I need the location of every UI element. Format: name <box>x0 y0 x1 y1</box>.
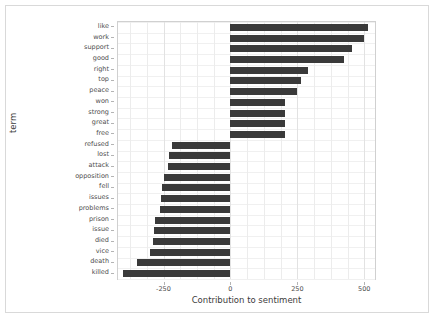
bar <box>230 35 364 42</box>
plot-panel <box>117 21 376 280</box>
bar <box>123 270 230 277</box>
y-tick-mark <box>111 166 114 167</box>
y-tick-label: died <box>95 237 109 244</box>
y-tick-mark <box>111 262 114 263</box>
gridline-vertical-minor <box>348 22 349 279</box>
figure-container: term likeworksupportgoodrighttoppeacewon… <box>5 5 429 313</box>
y-tick-mark <box>111 230 114 231</box>
bar <box>230 77 301 84</box>
y-tick-mark <box>111 251 114 252</box>
y-tick-mark <box>111 123 114 124</box>
bar <box>155 217 230 224</box>
x-tick-label: -250 <box>156 285 171 293</box>
y-tick-mark <box>111 91 114 92</box>
bar <box>153 238 230 245</box>
y-tick-label: problems <box>79 205 109 212</box>
y-tick-mark <box>111 58 114 59</box>
gridline-horizontal <box>118 279 375 280</box>
y-tick-mark <box>111 69 114 70</box>
gridline-vertical-minor <box>147 22 148 279</box>
y-tick-label: good <box>93 55 109 62</box>
bar <box>230 24 368 31</box>
y-tick-label: great <box>92 119 109 126</box>
y-tick-label: top <box>98 76 109 83</box>
bar <box>230 56 344 63</box>
x-tick-mark <box>230 282 231 285</box>
x-tick-label: 0 <box>228 285 232 293</box>
y-tick-label: issues <box>89 194 109 201</box>
y-tick-mark <box>111 80 114 81</box>
bar <box>137 259 231 266</box>
x-tick-label: 500 <box>358 285 370 293</box>
x-tick-mark <box>164 282 165 285</box>
bar <box>164 174 231 181</box>
y-tick-label: free <box>96 130 109 137</box>
y-tick-mark <box>111 176 114 177</box>
y-tick-label: death <box>90 258 109 265</box>
y-tick-mark <box>111 155 114 156</box>
gridline-vertical-major <box>364 22 365 279</box>
bar <box>169 152 230 159</box>
bar <box>162 184 230 191</box>
bar <box>160 206 230 213</box>
x-axis-title: Contribution to sentiment <box>117 295 376 305</box>
y-tick-mark <box>111 144 114 145</box>
y-tick-mark <box>111 241 114 242</box>
y-tick-mark <box>111 133 114 134</box>
y-tick-label: fell <box>99 183 109 190</box>
y-tick-mark <box>111 101 114 102</box>
y-tick-label: strong <box>88 109 109 116</box>
y-axis-labels: likeworksupportgoodrighttoppeacewonstron… <box>6 21 114 280</box>
x-tick-mark <box>297 282 298 285</box>
bar <box>172 142 231 149</box>
bar <box>230 120 285 127</box>
x-tick-mark <box>364 282 365 285</box>
figure-caption <box>5 322 431 330</box>
x-tick-label: 250 <box>291 285 303 293</box>
bar <box>230 131 284 138</box>
y-tick-label: killed <box>92 269 109 276</box>
y-tick-mark <box>111 112 114 113</box>
y-tick-mark <box>111 26 114 27</box>
bar <box>230 45 352 52</box>
bar <box>230 67 308 74</box>
bar <box>161 195 230 202</box>
y-tick-label: won <box>96 98 109 105</box>
y-tick-label: opposition <box>75 173 109 180</box>
y-tick-label: peace <box>89 87 109 94</box>
bar <box>230 88 297 95</box>
y-tick-label: vice <box>96 248 109 255</box>
y-tick-mark <box>111 273 114 274</box>
bar <box>230 99 285 106</box>
y-tick-label: like <box>98 23 109 30</box>
y-tick-label: refused <box>85 141 109 148</box>
bar <box>154 227 230 234</box>
y-tick-label: issue <box>92 226 109 233</box>
y-tick-mark <box>111 208 114 209</box>
y-tick-mark <box>111 187 114 188</box>
bar <box>230 110 285 117</box>
gridline-vertical-minor <box>130 22 131 279</box>
bar <box>168 163 230 170</box>
y-tick-mark <box>111 198 114 199</box>
y-tick-label: prison <box>89 216 109 223</box>
x-axis-labels: -2500250500 <box>117 282 376 294</box>
bar <box>150 249 230 256</box>
y-tick-label: support <box>84 44 109 51</box>
y-tick-mark <box>111 219 114 220</box>
y-tick-mark <box>111 48 114 49</box>
y-tick-mark <box>111 37 114 38</box>
y-tick-label: attack <box>89 162 109 169</box>
y-tick-label: right <box>94 66 109 73</box>
y-tick-label: lost <box>97 151 109 158</box>
y-tick-label: work <box>93 34 109 41</box>
